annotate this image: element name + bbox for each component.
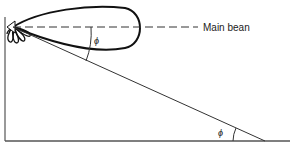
- angle-arc-bottom: [233, 128, 236, 141]
- antenna-diagram: Main bean ϕ ϕ: [0, 0, 290, 151]
- angle-label-top: ϕ: [94, 36, 99, 46]
- main-lobe: [13, 7, 140, 50]
- angle-arc-top: [86, 27, 91, 61]
- angle-label-bottom: ϕ: [218, 128, 223, 138]
- slant-line: [13, 27, 265, 141]
- main-beam-label: Main bean: [203, 22, 250, 33]
